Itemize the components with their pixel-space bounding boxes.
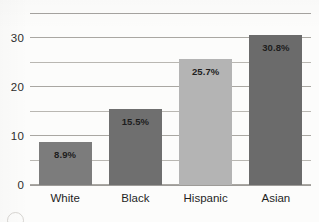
plot-area: 0102030 8.9%15.5%25.7%30.8% [30,10,311,189]
circle-mark-icon [7,212,24,222]
bar: 25.7% [179,59,232,185]
x-axis-label: Asian [241,192,311,204]
y-tick-label: 10 [11,130,24,142]
bar-chart: 0102030 8.9%15.5%25.7%30.8% WhiteBlackHi… [0,0,319,222]
y-tick-label: 20 [11,81,24,93]
bar: 8.9% [39,142,92,185]
bar-value-label: 15.5% [109,116,162,127]
bar: 15.5% [109,109,162,185]
bars-group: 8.9%15.5%25.7%30.8% [30,10,311,189]
bar-value-label: 8.9% [39,149,92,160]
y-tick-label: 30 [11,32,24,44]
bar-value-label: 25.7% [179,66,232,77]
x-axis-label: White [30,192,100,204]
bar: 30.8% [249,35,302,185]
bar-value-label: 30.8% [249,42,302,53]
x-axis-labels: WhiteBlackHispanicAsian [30,192,311,212]
x-axis-label: Black [100,192,170,204]
y-tick-label: 0 [17,179,24,191]
x-axis-label: Hispanic [171,192,241,204]
